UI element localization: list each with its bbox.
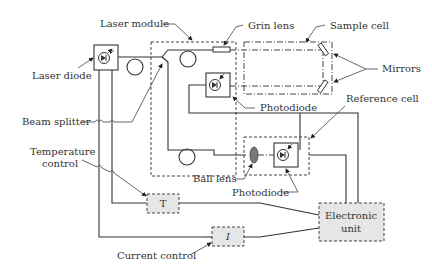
label-temperature-control-1: Temperature — [30, 146, 96, 157]
label-laser-module: Laser module — [100, 18, 169, 29]
label-mirrors: Mirrors — [382, 63, 421, 74]
temperature-box-label: T — [160, 198, 167, 209]
fiber-coil-1 — [127, 59, 143, 75]
label-ball-lens: Ball lens — [193, 173, 237, 184]
label-beam-splitter: Beam splitter — [22, 116, 91, 127]
fiber-coil-2 — [180, 51, 196, 67]
laser-diode — [94, 45, 118, 70]
electronic-unit-label-1: Electronic — [325, 210, 377, 221]
ball-lens — [250, 147, 258, 163]
electronic-unit-label-2: unit — [341, 223, 361, 234]
grin-lens — [213, 47, 230, 52]
label-laser-diode: Laser diode — [32, 70, 92, 81]
fiber-coil-3 — [179, 149, 195, 165]
laser-module-box — [151, 42, 236, 176]
electronic-unit-box — [319, 203, 384, 241]
label-photodiode-bottom: Photodiode — [232, 187, 289, 198]
label-reference-cell: Reference cell — [346, 93, 419, 104]
diagram-canvas: T I Electronic unit Laser module Grin le… — [0, 0, 432, 274]
photodiode-bottom — [274, 143, 298, 167]
label-current-control: Current control — [117, 250, 196, 261]
label-grin-lens: Grin lens — [248, 20, 294, 31]
label-sample-cell: Sample cell — [330, 20, 389, 31]
label-temperature-control-2: control — [42, 158, 78, 169]
photodiode-top — [206, 73, 230, 97]
label-photodiode-top: Photodiode — [260, 102, 317, 113]
